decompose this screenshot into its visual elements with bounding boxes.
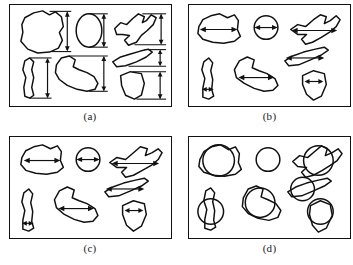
shape-wedge-triangle xyxy=(309,201,332,232)
panel-a-caption: (a) xyxy=(83,110,96,122)
panel-c-caption: (c) xyxy=(83,242,96,254)
panel-b-canvas xyxy=(189,5,350,106)
shape-wedge-triangle xyxy=(121,72,145,99)
shape-hook-boot xyxy=(115,14,156,45)
panel-d: (d) xyxy=(176,132,353,265)
panel-a: (a) xyxy=(0,0,176,132)
shape-narrow-sliver xyxy=(22,189,34,231)
panel-d-canvas xyxy=(189,137,350,238)
shape-hook-boot xyxy=(292,146,341,177)
shape-blob-polygon-large xyxy=(21,11,63,53)
panel-a-frame xyxy=(9,4,172,107)
shape-ellipse-oval xyxy=(76,14,102,47)
shape-circle xyxy=(256,148,280,172)
shape-narrow-sliver xyxy=(23,58,34,98)
shape-foot xyxy=(54,187,97,222)
shape-foot xyxy=(55,56,97,91)
shape-thin-blade xyxy=(113,49,153,67)
figure-grid: (a) xyxy=(0,0,353,265)
panel-c: (c) xyxy=(0,132,176,265)
panel-b-frame xyxy=(188,4,351,107)
shape-wedge-triangle xyxy=(302,71,326,100)
shape-narrow-sliver xyxy=(201,58,213,99)
panel-b: (b) xyxy=(176,0,353,132)
panel-c-canvas xyxy=(10,137,171,238)
panel-c-frame xyxy=(9,136,172,239)
panel-d-frame xyxy=(188,136,351,239)
panel-a-canvas xyxy=(10,5,171,106)
shape-wedge-triangle xyxy=(123,201,147,231)
panel-b-caption: (b) xyxy=(263,110,277,122)
shape-foot xyxy=(234,57,277,91)
panel-d-caption: (d) xyxy=(263,242,277,254)
